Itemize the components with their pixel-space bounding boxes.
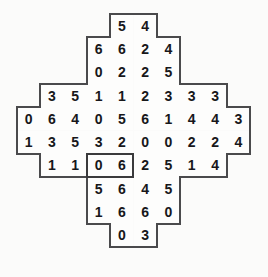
grid-cell[interactable]: 1 [40, 154, 63, 177]
cell-digit: 0 [95, 111, 103, 125]
grid-cell[interactable]: 2 [134, 37, 157, 60]
cell-digit: 1 [95, 205, 103, 219]
grid-cell[interactable]: 1 [157, 107, 180, 130]
grid-cell[interactable]: 0 [87, 61, 110, 84]
grid-cell[interactable]: 5 [157, 61, 180, 84]
cell-digit: 4 [141, 181, 149, 195]
grid-cell[interactable]: 4 [180, 107, 203, 130]
cell-digit: 3 [188, 88, 196, 102]
grid-cell[interactable]: 6 [110, 154, 133, 177]
cell-digit: 1 [118, 88, 126, 102]
grid-cell[interactable]: 2 [134, 61, 157, 84]
cell-digit: 6 [118, 158, 126, 172]
grid-cell[interactable]: 5 [64, 131, 87, 154]
cell-digit: 5 [95, 181, 103, 195]
grid-cell[interactable]: 3 [87, 131, 110, 154]
grid-cell[interactable]: 5 [157, 177, 180, 200]
cell-digit: 1 [48, 158, 56, 172]
grid-outline-bottom [39, 176, 65, 178]
grid-cell[interactable]: 4 [134, 177, 157, 200]
grid-cell[interactable]: 0 [134, 131, 157, 154]
grid-cell[interactable]: 2 [180, 131, 203, 154]
cell-digit: 4 [165, 41, 173, 55]
grid-cell[interactable]: 2 [110, 61, 133, 84]
cell-digit: 6 [118, 205, 126, 219]
grid-outline-top [132, 13, 158, 15]
grid-cell[interactable]: 5 [110, 14, 133, 37]
cell-digit: 5 [165, 181, 173, 195]
grid-cell[interactable]: 1 [87, 200, 110, 223]
cell-digit: 2 [211, 135, 219, 149]
grid-cell[interactable]: 3 [203, 84, 226, 107]
cell-digit: 0 [141, 135, 149, 149]
grid-cell[interactable]: 0 [110, 224, 133, 247]
grid-cell[interactable]: 4 [157, 37, 180, 60]
grid-cell[interactable]: 4 [134, 14, 157, 37]
grid-cell[interactable]: 3 [180, 84, 203, 107]
grid-cell[interactable]: 3 [40, 84, 63, 107]
grid-cell[interactable]: 6 [87, 37, 110, 60]
grid-outline-right [156, 13, 158, 39]
cell-digit: 2 [141, 88, 149, 102]
grid-cell[interactable]: 1 [87, 84, 110, 107]
grid-cell[interactable]: 0 [87, 154, 110, 177]
grid-outline-bottom [202, 176, 228, 178]
grid-cell[interactable]: 4 [227, 131, 250, 154]
cell-digit: 6 [141, 205, 149, 219]
grid-cell[interactable]: 1 [17, 131, 40, 154]
grid-cell[interactable]: 1 [110, 84, 133, 107]
cell-digit: 1 [25, 135, 33, 149]
grid-outline-bottom [226, 153, 252, 155]
grid-cell[interactable]: 5 [64, 84, 87, 107]
cell-digit: 5 [165, 158, 173, 172]
grid-cell[interactable]: 6 [110, 200, 133, 223]
grid-cell[interactable]: 0 [17, 107, 40, 130]
grid-cell[interactable]: 2 [134, 154, 157, 177]
grid-cell[interactable]: 6 [134, 200, 157, 223]
cell-digit: 2 [188, 135, 196, 149]
grid-outline-bottom [63, 176, 89, 178]
grid-cell[interactable]: 4 [64, 107, 87, 130]
grid-cell[interactable]: 3 [157, 84, 180, 107]
grid-cell[interactable]: 2 [134, 84, 157, 107]
cell-digit: 4 [234, 135, 242, 149]
grid-cell[interactable]: 2 [110, 131, 133, 154]
grid-cell[interactable]: 1 [180, 154, 203, 177]
grid-outline-top [226, 106, 252, 108]
grid-cell[interactable]: 5 [87, 177, 110, 200]
grid-outline-right [179, 176, 181, 202]
grid-cell[interactable]: 4 [203, 154, 226, 177]
grid-cell[interactable]: 5 [110, 107, 133, 130]
grid-cell[interactable]: 3 [40, 131, 63, 154]
grid-outline-left [16, 106, 18, 132]
cell-digit: 0 [95, 65, 103, 79]
cell-digit: 4 [211, 111, 219, 125]
grid-cell[interactable]: 2 [203, 131, 226, 154]
grid-cell[interactable]: 6 [110, 37, 133, 60]
grid-cell[interactable]: 6 [110, 177, 133, 200]
grid-cell[interactable]: 6 [40, 107, 63, 130]
grid-cell[interactable]: 0 [157, 131, 180, 154]
grid-outline-top [202, 83, 228, 85]
grid-outline-left [39, 83, 41, 109]
grid-cell[interactable]: 5 [157, 154, 180, 177]
grid-outline-left [16, 129, 18, 155]
cell-digit: 6 [141, 111, 149, 125]
grid-outline-right [179, 36, 181, 62]
cell-digit: 3 [165, 88, 173, 102]
grid-outline-top [156, 36, 182, 38]
grid-outline-right [179, 60, 181, 86]
cell-digit: 3 [48, 88, 56, 102]
grid-cell[interactable]: 3 [134, 224, 157, 247]
grid-cell[interactable]: 3 [227, 107, 250, 130]
grid-outline-right [249, 129, 251, 155]
cell-digit: 4 [211, 158, 219, 172]
grid-cell[interactable]: 0 [87, 107, 110, 130]
grid-cell[interactable]: 6 [134, 107, 157, 130]
cell-digit: 6 [118, 41, 126, 55]
grid-cell[interactable]: 4 [203, 107, 226, 130]
grid-outline-bottom [16, 153, 42, 155]
grid-cell[interactable]: 0 [157, 200, 180, 223]
grid-cell[interactable]: 1 [64, 154, 87, 177]
cell-digit: 3 [234, 111, 242, 125]
